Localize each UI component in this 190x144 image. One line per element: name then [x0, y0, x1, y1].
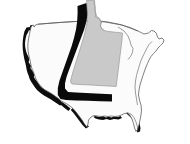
us-map-svg — [0, 0, 190, 144]
us-map-figure: Map of the contiguous United States Outl… — [0, 0, 190, 144]
